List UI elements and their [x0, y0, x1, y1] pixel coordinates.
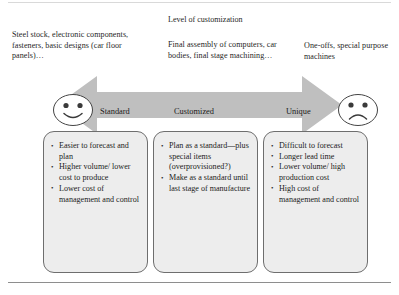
attribute-boxes: Easier to forecast and plan Higher volum…	[0, 131, 399, 279]
happy-face-icon	[52, 92, 94, 132]
spectrum-label-customized: Customized	[174, 106, 214, 117]
list-item: High cost of management and control	[271, 184, 361, 205]
bullet-list-unique: Difficult to forecast Longer lead time L…	[271, 141, 361, 205]
customization-level-figure: Level of customization Steel stock, elec…	[0, 0, 399, 295]
spectrum-label-unique: Unique	[286, 106, 311, 117]
bullet-list-standard: Easier to forecast and plan Higher volum…	[51, 141, 141, 205]
list-item: Higher volume/ lower cost to produce	[51, 162, 141, 183]
spectrum-label-standard: Standard	[100, 106, 130, 117]
top-divider-rule	[8, 2, 391, 3]
list-item: Easier to forecast and plan	[51, 141, 141, 162]
list-item: Plan as a standard—plus special items (o…	[161, 141, 251, 173]
attribute-box-customized: Plan as a standard—plus special items (o…	[153, 131, 258, 273]
bullet-list-customized: Plan as a standard—plus special items (o…	[161, 141, 251, 195]
figure-heading: Level of customization	[168, 15, 318, 26]
attribute-box-unique: Difficult to forecast Longer lead time L…	[263, 131, 368, 273]
list-item: Difficult to forecast	[271, 141, 361, 152]
double-headed-arrow-shape	[57, 76, 342, 134]
list-item: Lower volume/ high production cost	[271, 162, 361, 183]
attribute-box-standard: Easier to forecast and plan Higher volum…	[43, 131, 148, 273]
sad-face-icon	[337, 92, 379, 132]
callout-right-examples: One-offs, special purpose machines	[304, 41, 399, 62]
callout-left-examples: Steel stock, electronic components, fast…	[12, 30, 134, 62]
list-item: Longer lead time	[271, 152, 361, 163]
list-item: Lower cost of management and control	[51, 184, 141, 205]
callout-middle-examples: Final assembly of computers, car bodies,…	[168, 40, 286, 61]
bottom-divider-rule	[8, 282, 391, 283]
list-item: Make as a standard until last stage of m…	[161, 173, 251, 194]
